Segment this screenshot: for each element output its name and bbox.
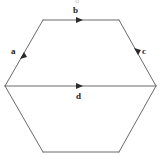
geometry-figure: b a b c d [0,0,161,159]
edge-label-a: a [11,47,16,56]
arrowhead-b-icon [76,17,83,23]
edge-label-c: c [142,47,146,56]
arrowhead-d-icon [76,83,83,89]
arrowhead-a-icon [20,52,27,59]
edge-lower-left-line [5,86,43,152]
edge-label-b: b [73,6,78,15]
edge-lower-right-line [119,86,156,152]
arrowhead-c-icon [134,48,141,55]
hexagon-diagram-svg [0,0,161,159]
edge-label-d: d [76,92,81,101]
